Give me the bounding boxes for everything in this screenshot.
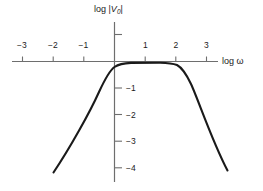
y-axis-title-prefix: log | bbox=[94, 4, 111, 14]
x-tick-label--3: −3 bbox=[17, 41, 27, 50]
y-axis-ticks bbox=[115, 35, 123, 168]
figure-container: log |V0| log ω −3 −2 −1 1 2 3 −1 −2 −3 −… bbox=[0, 0, 263, 191]
x-tick-label--1: −1 bbox=[79, 41, 89, 50]
y-axis-title-suffix: | bbox=[121, 4, 123, 14]
y-tick-label--4: −4 bbox=[126, 164, 136, 173]
x-tick-label-2: 2 bbox=[174, 41, 179, 50]
x-tick-label--2: −2 bbox=[48, 41, 58, 50]
y-axis-title: log |V0| bbox=[94, 5, 123, 16]
y-tick-label--3: −3 bbox=[126, 137, 136, 146]
x-tick-label-3: 3 bbox=[204, 41, 209, 50]
x-axis-title: log ω bbox=[222, 57, 244, 66]
y-tick-label--1: −1 bbox=[126, 84, 136, 93]
y-tick-label--2: −2 bbox=[126, 111, 136, 120]
x-tick-label-1: 1 bbox=[143, 41, 148, 50]
response-curve bbox=[54, 63, 228, 173]
